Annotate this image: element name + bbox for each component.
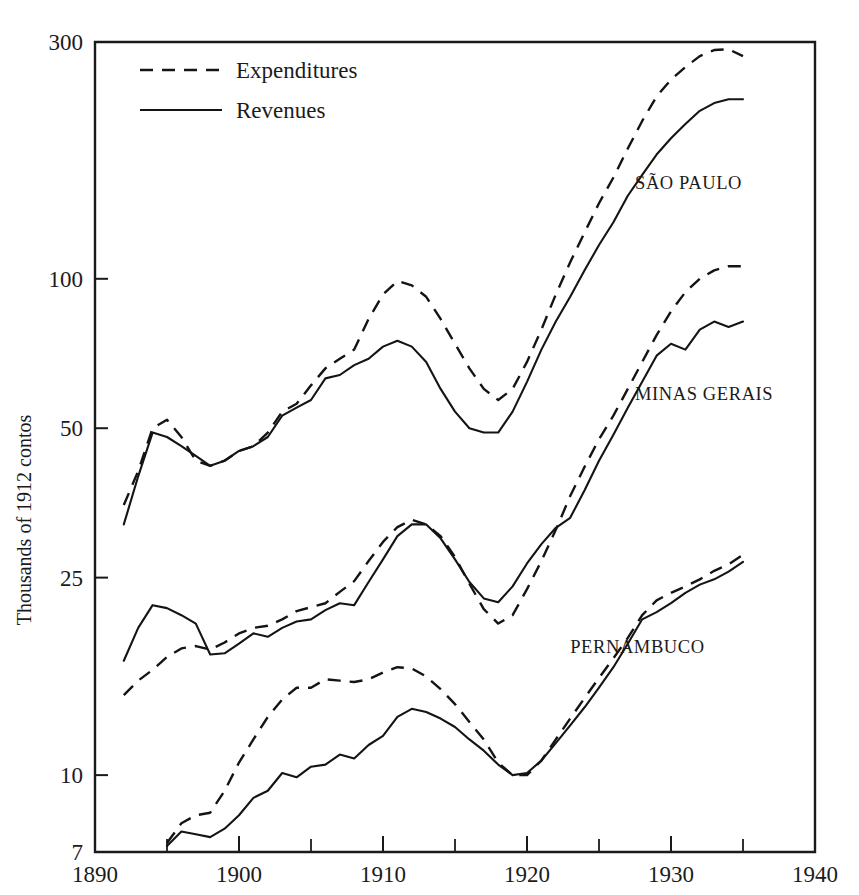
series-s-o-paulo-expenditures <box>124 49 743 505</box>
y-tick-label-100: 100 <box>49 267 84 292</box>
x-tick-label-1890: 1890 <box>72 862 118 887</box>
x-tick-label-1910: 1910 <box>360 862 406 887</box>
y-tick-label-10: 10 <box>60 763 83 788</box>
y-axis-title: Thousands of 1912 contos <box>13 415 35 626</box>
legend-label-revenues: Revenues <box>236 98 325 123</box>
x-tick-label-1940: 1940 <box>792 862 838 887</box>
brazilian-state-finances-log-line-chart: 3001005025107 189019001910192019301940 T… <box>0 0 859 895</box>
series-annotation-s-o-paulo: SÃO PAULO <box>635 172 742 193</box>
series-s-o-paulo-revenues <box>124 99 743 524</box>
x-axis-minor-ticks <box>167 839 743 852</box>
x-axis-tick-labels: 189019001910192019301940 <box>72 862 838 887</box>
series-minas-gerais-expenditures <box>124 266 743 695</box>
y-axis-tick-labels: 3001005025107 <box>49 30 84 865</box>
plot-frame <box>95 42 815 852</box>
y-tick-label-50: 50 <box>60 416 83 441</box>
data-series-group <box>124 49 743 846</box>
series-annotation-pernambuco: PERNAMBUCO <box>570 637 705 657</box>
x-tick-label-1920: 1920 <box>504 862 550 887</box>
series-annotation-minas-gerais: MINAS GERAIS <box>635 384 773 404</box>
series-pernambuco-expenditures <box>167 555 743 843</box>
series-minas-gerais-revenues <box>124 322 743 661</box>
x-tick-label-1900: 1900 <box>216 862 262 887</box>
legend-label-expenditures: Expenditures <box>236 58 357 83</box>
y-tick-label-25: 25 <box>60 566 83 591</box>
series-annotation-labels: SÃO PAULOMINAS GERAISPERNAMBUCO <box>570 172 773 658</box>
chart-figure: 3001005025107 189019001910192019301940 T… <box>0 0 859 895</box>
chart-legend: Expenditures Revenues <box>140 58 357 123</box>
x-tick-label-1930: 1930 <box>648 862 694 887</box>
y-axis-ticks <box>95 42 108 852</box>
y-tick-label-300: 300 <box>49 30 84 55</box>
